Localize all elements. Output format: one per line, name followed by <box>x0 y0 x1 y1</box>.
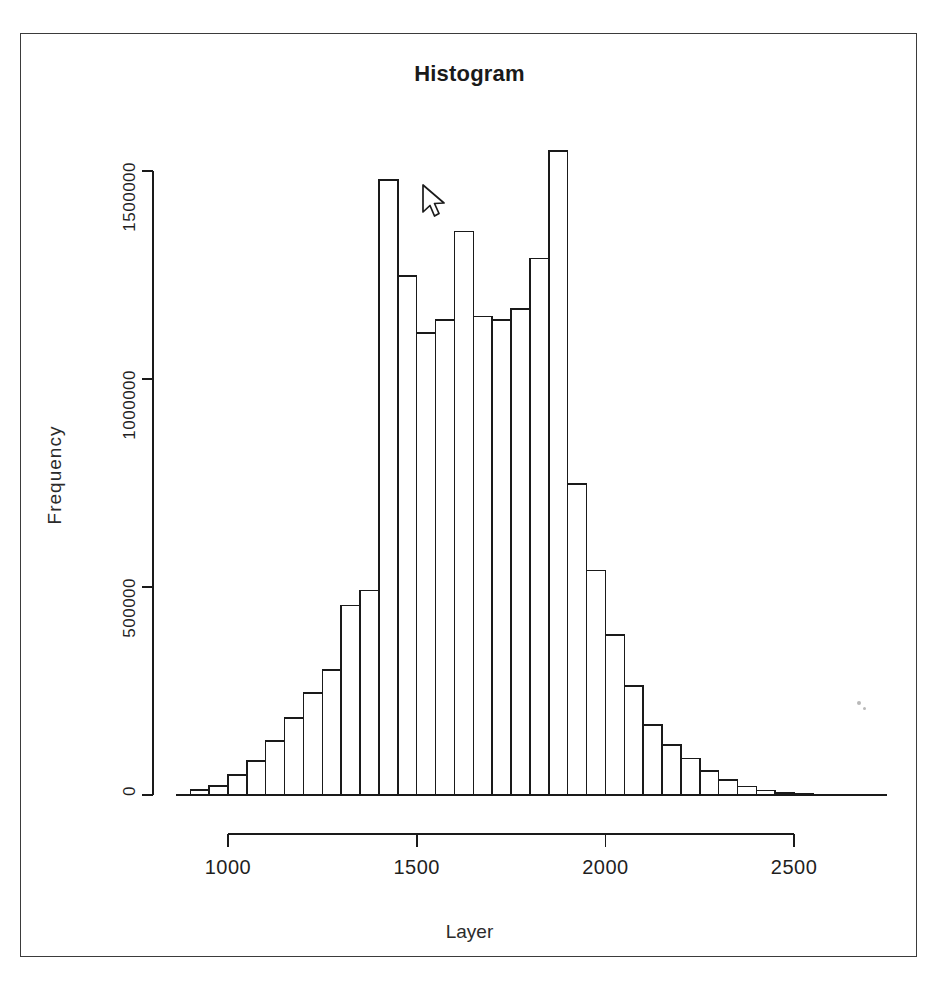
histogram-bar <box>417 333 436 795</box>
histogram-bar <box>473 317 492 795</box>
scan-speck <box>863 707 866 710</box>
histogram-bar <box>719 780 738 795</box>
histogram-bar <box>322 670 341 795</box>
x-axis-title: Layer <box>21 921 918 943</box>
x-axis-tick-label: 2000 <box>560 856 650 879</box>
x-axis-tick-label: 1500 <box>372 856 462 879</box>
histogram-bar <box>737 787 756 795</box>
y-axis-tick-label: 500000 <box>120 578 140 696</box>
y-axis-tick-label: 1500000 <box>120 162 140 280</box>
histogram-plot-area: Histogram 050000010000001500000 10001500… <box>21 34 918 958</box>
histogram-bar <box>360 590 379 795</box>
figure-frame: Histogram 050000010000001500000 10001500… <box>20 33 917 957</box>
histogram-bar <box>549 151 568 795</box>
histogram-bar <box>511 309 530 795</box>
histogram-bar <box>681 758 700 795</box>
histogram-bar <box>643 725 662 795</box>
histogram-bar <box>530 258 549 795</box>
x-axis-tick-label: 2500 <box>749 856 839 879</box>
histogram-bar <box>379 180 398 795</box>
histogram-bar <box>492 320 511 795</box>
histogram-bar <box>398 276 417 795</box>
histogram-bar <box>605 635 624 795</box>
histogram-bar <box>228 775 247 795</box>
y-axis-tick-label: 1000000 <box>120 370 140 488</box>
x-axis-tick-label: 1000 <box>183 856 273 879</box>
histogram-bar <box>266 741 285 795</box>
histogram-bar <box>285 718 304 795</box>
histogram-bars <box>176 151 886 795</box>
histogram-bar <box>247 761 266 795</box>
histogram-bar <box>568 484 587 795</box>
histogram-bar <box>209 786 228 795</box>
scan-speck <box>857 701 861 705</box>
histogram-bar <box>587 570 606 795</box>
histogram-bar <box>341 606 360 795</box>
histogram-bar <box>454 231 473 795</box>
histogram-bar <box>662 745 681 795</box>
histogram-bar <box>303 693 322 795</box>
y-axis-tick-label: 0 <box>120 786 140 904</box>
histogram-bar <box>700 771 719 795</box>
histogram-bar <box>624 686 643 795</box>
page-top-text-fragment <box>22 0 722 9</box>
histogram-bar <box>436 320 455 795</box>
y-axis-title: Frequency <box>44 385 66 565</box>
histogram-canvas <box>21 34 918 958</box>
